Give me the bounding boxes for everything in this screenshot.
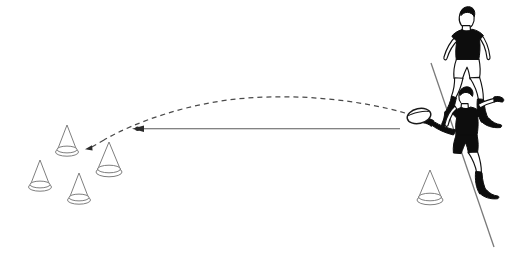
player-lower-hair — [460, 87, 473, 97]
kick-trajectory-dashed — [85, 97, 405, 151]
run-line-solid — [132, 126, 400, 132]
cone-lower-middle — [68, 173, 91, 204]
cone-upper-left — [56, 125, 79, 156]
cone-far-left — [29, 160, 52, 191]
player-upper-jersey — [452, 29, 484, 60]
player-upper-front-boot — [481, 118, 502, 127]
diagram-svg: Rugby kicking drill diagram Line drawing… — [0, 0, 519, 261]
player-lower-shorts — [453, 135, 478, 154]
cone-right — [417, 170, 443, 205]
drill-diagram-canvas: Rugby kicking drill diagram Line drawing… — [0, 0, 519, 261]
player-lower-jersey — [452, 107, 481, 136]
cone-target — [96, 142, 122, 177]
player-lower-front-hand — [494, 96, 504, 102]
player-upper-shorts — [454, 59, 480, 79]
player-lower-standing-boot — [479, 190, 499, 199]
player-lower-standing-thigh — [468, 152, 481, 174]
